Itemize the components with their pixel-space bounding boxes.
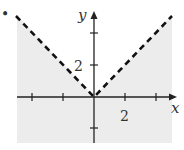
inequality-graph: • y x 2 2: [0, 0, 184, 150]
x-axis-label: x: [171, 99, 180, 117]
y-axis-label: y: [77, 6, 87, 24]
y-axis-arrow-icon: [91, 11, 98, 19]
x-tick-label-2: 2: [120, 108, 129, 124]
bullet-marker: •: [1, 6, 9, 22]
y-tick-label-2: 2: [74, 58, 83, 74]
